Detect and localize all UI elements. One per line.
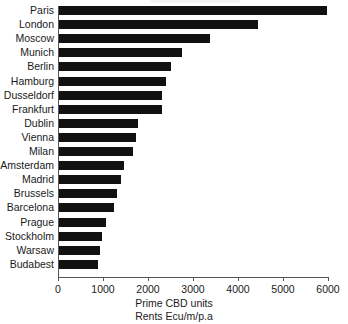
bar-barcelona <box>58 203 114 212</box>
bar-milan <box>58 147 133 156</box>
category-label-munich: Munich <box>0 47 54 58</box>
x-tick-label-1000: 1000 <box>91 283 114 295</box>
category-label-warsaw: Warsaw <box>0 245 54 256</box>
category-axis-labels: ParisLondonMoscowMunichBerlinHamburgDuss… <box>0 6 54 276</box>
x-axis-caption-line2: Rents Ecu/m/p.a <box>0 310 348 322</box>
category-label-brussels: Brussels <box>0 188 54 199</box>
bar-vienna <box>58 133 136 142</box>
bar-prague <box>58 218 106 227</box>
category-label-moscow: Moscow <box>0 33 54 44</box>
x-tick-label-4000: 4000 <box>226 283 249 295</box>
bar-munich <box>58 48 182 57</box>
category-label-london: London <box>0 19 54 30</box>
x-tick-3000 <box>193 277 194 281</box>
bar-warsaw <box>58 246 100 255</box>
category-label-stockholm: Stockholm <box>0 231 54 242</box>
bar-amsterdam <box>58 161 124 170</box>
bar-dublin <box>58 119 138 128</box>
bar-paris <box>58 6 327 15</box>
category-label-madrid: Madrid <box>0 174 54 185</box>
category-label-dublin: Dublin <box>0 118 54 129</box>
title-artifact <box>150 0 240 3</box>
x-tick-1000 <box>103 277 104 281</box>
y-axis-line <box>58 6 59 277</box>
category-label-barcelona: Barcelona <box>0 202 54 213</box>
bar-london <box>58 20 258 29</box>
category-label-prague: Prague <box>0 217 54 228</box>
x-tick-label-5000: 5000 <box>271 283 294 295</box>
bar-chart: ParisLondonMoscowMunichBerlinHamburgDuss… <box>0 0 348 324</box>
x-axis-caption-line1: Prime CBD units <box>0 297 348 309</box>
bar-dusseldorf <box>58 91 162 100</box>
category-label-milan: Milan <box>0 146 54 157</box>
bar-berlin <box>58 62 171 71</box>
bar-frankfurt <box>58 105 162 114</box>
bar-budabest <box>58 260 98 269</box>
bar-brussels <box>58 189 117 198</box>
category-label-paris: Paris <box>0 5 54 16</box>
plot-area <box>58 6 328 276</box>
x-tick-label-6000: 6000 <box>316 283 339 295</box>
x-tick-6000 <box>328 277 329 281</box>
bar-moscow <box>58 34 210 43</box>
x-tick-label-0: 0 <box>55 283 61 295</box>
x-tick-4000 <box>238 277 239 281</box>
category-label-berlin: Berlin <box>0 61 54 72</box>
category-label-dusseldorf: Dusseldorf <box>0 90 54 101</box>
category-label-frankfurt: Frankfurt <box>0 104 54 115</box>
category-label-hamburg: Hamburg <box>0 76 54 87</box>
category-label-vienna: Vienna <box>0 132 54 143</box>
x-tick-label-3000: 3000 <box>181 283 204 295</box>
x-tick-label-2000: 2000 <box>136 283 159 295</box>
x-tick-2000 <box>148 277 149 281</box>
category-label-budabest: Budabest <box>0 259 54 270</box>
x-tick-5000 <box>283 277 284 281</box>
x-tick-0 <box>58 277 59 281</box>
bar-hamburg <box>58 77 166 86</box>
category-label-amsterdam: Amsterdam <box>0 160 54 171</box>
bar-stockholm <box>58 232 102 241</box>
bar-madrid <box>58 175 121 184</box>
